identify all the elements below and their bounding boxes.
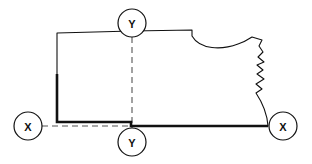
section-marker-x-left[interactable]: X: [14, 112, 42, 140]
section-marker-y-bottom[interactable]: Y: [118, 128, 146, 156]
section-marker-y-top-label: Y: [128, 18, 136, 30]
building-outline-thin: [57, 30, 268, 126]
section-marker-y-bottom-label: Y: [128, 137, 136, 149]
section-marker-x-right-label: X: [279, 121, 287, 133]
building-outline-thick: [57, 74, 268, 126]
section-marker-y-top[interactable]: Y: [118, 9, 146, 37]
section-marker-x-left-label: X: [24, 121, 32, 133]
section-marker-x-right[interactable]: X: [269, 112, 297, 140]
diagram-canvas: X X Y Y: [0, 0, 312, 164]
section-plan-diagram: X X Y Y: [0, 0, 312, 164]
